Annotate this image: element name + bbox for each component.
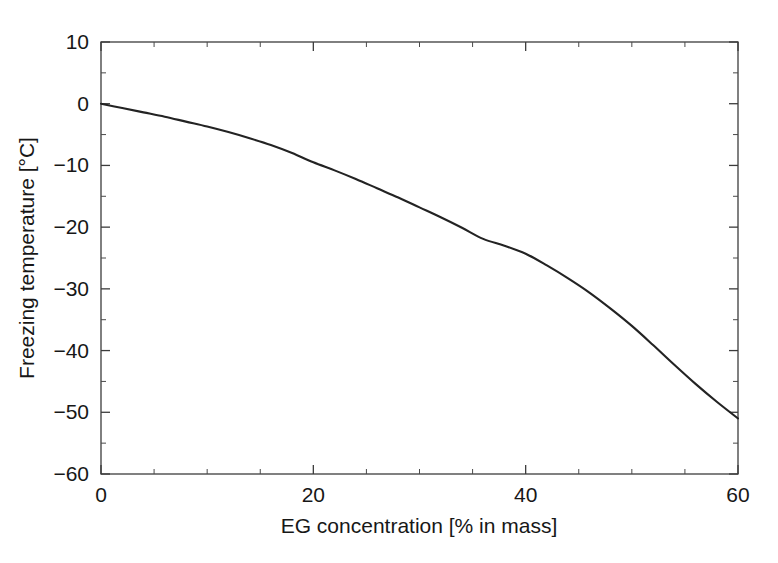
y-axis-title: Freezing temperature [°C] xyxy=(15,137,38,379)
freezing-temperature-chart: 0204060 100−10−20−30−40−50−60 EG concent… xyxy=(0,0,778,563)
y-axis-ticks xyxy=(101,42,738,474)
y-tick-label--60: −60 xyxy=(53,462,89,485)
figure-container: 0204060 100−10−20−30−40−50−60 EG concent… xyxy=(0,0,778,563)
y-tick-label-0: 0 xyxy=(77,92,89,115)
data-series-group xyxy=(101,104,738,419)
freezing-curve xyxy=(101,104,738,419)
y-tick-label--40: −40 xyxy=(53,339,89,362)
axis-frame xyxy=(101,42,738,474)
x-tick-label-60: 60 xyxy=(726,483,749,506)
x-tick-label-20: 20 xyxy=(302,483,325,506)
y-tick-label--10: −10 xyxy=(53,153,89,176)
x-tick-label-0: 0 xyxy=(95,483,107,506)
y-tick-label--20: −20 xyxy=(53,215,89,238)
x-tick-label-40: 40 xyxy=(514,483,537,506)
y-tick-label-10: 10 xyxy=(66,30,89,53)
x-axis-tick-labels: 0204060 xyxy=(95,483,750,506)
x-axis-ticks xyxy=(101,42,738,474)
y-axis-tick-labels: 100−10−20−30−40−50−60 xyxy=(53,30,89,485)
axis-box-rect xyxy=(101,42,738,474)
y-tick-label--30: −30 xyxy=(53,277,89,300)
y-tick-label--50: −50 xyxy=(53,400,89,423)
x-axis-title: EG concentration [% in mass] xyxy=(281,514,558,537)
